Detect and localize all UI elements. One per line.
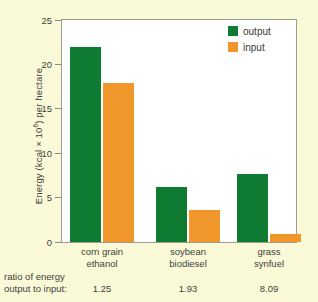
x-category-label-line: biodiesel bbox=[156, 258, 220, 270]
ratio-value-corn-grain-ethanol: 1.25 bbox=[70, 283, 134, 294]
bar-output-soybean-biodiesel[interactable] bbox=[156, 187, 187, 242]
x-axis-category-labels: corn grainethanolsoybeanbiodieselgrasssy… bbox=[62, 246, 296, 276]
y-tick-label: 25 bbox=[41, 15, 55, 26]
y-tick-15: 15 bbox=[41, 103, 61, 115]
chart-legend: outputinput bbox=[228, 24, 271, 56]
y-tick-5: 5 bbox=[47, 192, 61, 204]
x-category-label-corn-grain-ethanol: corn grainethanol bbox=[70, 246, 134, 269]
x-category-label-line: ethanol bbox=[70, 258, 134, 270]
y-tick-10: 10 bbox=[41, 147, 61, 159]
bar-input-soybean-biodiesel[interactable] bbox=[189, 210, 220, 242]
bar-group-soybean-biodiesel bbox=[156, 20, 220, 242]
y-tick-label: 15 bbox=[41, 103, 55, 114]
x-category-label-soybean-biodiesel: soybeanbiodiesel bbox=[156, 246, 220, 269]
x-category-label-line: corn grain bbox=[70, 246, 134, 258]
ratio-value-grass-synfuel: 8.09 bbox=[237, 283, 301, 294]
bar-group-corn-grain-ethanol bbox=[70, 20, 134, 242]
ratio-row-label: ratio of energyoutput to input: bbox=[4, 271, 67, 294]
ratio-row-label-line: output to input: bbox=[4, 283, 67, 295]
y-tick-label: 0 bbox=[47, 237, 55, 248]
legend-swatch-output bbox=[228, 26, 238, 36]
legend-item-output[interactable]: output bbox=[228, 24, 271, 38]
bar-chart-figure: Energy (kcal × 106) per hectare 05101520… bbox=[0, 0, 318, 302]
x-category-label-line: grass bbox=[237, 246, 301, 258]
x-category-label-line: soybean bbox=[156, 246, 220, 258]
bar-input-corn-grain-ethanol[interactable] bbox=[103, 83, 134, 242]
y-axis-ticks: 0510152025 bbox=[0, 0, 61, 302]
bar-output-grass-synfuel[interactable] bbox=[237, 174, 268, 242]
bar-input-grass-synfuel[interactable] bbox=[270, 234, 301, 242]
ratio-value-soybean-biodiesel: 1.93 bbox=[156, 283, 220, 294]
y-tick-label: 5 bbox=[47, 192, 55, 203]
y-tick-label: 10 bbox=[41, 148, 55, 159]
x-category-label-grass-synfuel: grasssynfuel bbox=[237, 246, 301, 269]
y-tick-0: 0 bbox=[47, 236, 61, 248]
y-tick-20: 20 bbox=[41, 58, 61, 70]
ratio-row-label-line: ratio of energy bbox=[4, 271, 67, 283]
y-tick-label: 20 bbox=[41, 59, 55, 70]
x-category-label-line: synfuel bbox=[237, 258, 301, 270]
legend-label: output bbox=[243, 26, 271, 37]
bar-output-corn-grain-ethanol[interactable] bbox=[70, 47, 101, 242]
legend-item-input[interactable]: input bbox=[228, 40, 271, 54]
legend-swatch-input bbox=[228, 42, 238, 52]
ratio-row-values: 1.251.938.09 bbox=[62, 283, 296, 297]
legend-label: input bbox=[243, 42, 265, 53]
y-tick-25: 25 bbox=[41, 14, 61, 26]
